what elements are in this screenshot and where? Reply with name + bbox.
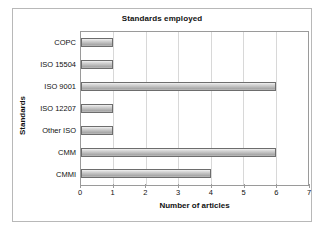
y-axis-tick-label: ISO 9001 bbox=[29, 75, 79, 97]
x-axis-tick-label: 3 bbox=[176, 188, 180, 197]
y-axis-tick-label: ISO 12207 bbox=[29, 97, 79, 119]
bar bbox=[81, 126, 113, 135]
bar bbox=[81, 169, 211, 178]
x-axis-tick-label: 2 bbox=[143, 188, 147, 197]
bar-row bbox=[81, 119, 308, 141]
bar-row bbox=[81, 76, 308, 98]
bar bbox=[81, 38, 113, 47]
chart-container: Standards employed Standards COPCISO 155… bbox=[12, 8, 312, 222]
x-axis-tick-label: 6 bbox=[274, 188, 278, 197]
bar-row bbox=[81, 141, 308, 163]
x-axis-tick-label: 4 bbox=[209, 188, 213, 197]
x-axis-title: Number of articles bbox=[80, 201, 309, 210]
bar bbox=[81, 60, 113, 69]
y-axis-tick-label: Other ISO bbox=[29, 120, 79, 142]
bar-row bbox=[81, 54, 308, 76]
x-axis-tick-label: 7 bbox=[307, 188, 311, 197]
bar-row bbox=[81, 32, 308, 54]
chart-title: Standards employed bbox=[13, 14, 311, 23]
bar-row bbox=[81, 98, 308, 120]
x-axis-tick-label: 0 bbox=[78, 188, 82, 197]
bar bbox=[81, 82, 276, 91]
y-axis-tick-label: CMM bbox=[29, 142, 79, 164]
bar-series bbox=[81, 32, 308, 185]
x-axis-tick-label: 1 bbox=[111, 188, 115, 197]
y-axis-title: Standards bbox=[19, 95, 28, 134]
y-axis-tick-label: COPC bbox=[29, 31, 79, 53]
plot-area bbox=[80, 31, 309, 186]
y-axis-tick-labels: COPCISO 15504ISO 9001ISO 12207Other ISOC… bbox=[29, 31, 79, 186]
x-axis-tick-label: 5 bbox=[241, 188, 245, 197]
y-axis-tick-label: CMMI bbox=[29, 164, 79, 186]
bar bbox=[81, 148, 276, 157]
y-axis-tick-label: ISO 15504 bbox=[29, 53, 79, 75]
bar bbox=[81, 104, 113, 113]
x-axis-tick-labels: 01234567 bbox=[80, 188, 309, 200]
bar-row bbox=[81, 163, 308, 185]
